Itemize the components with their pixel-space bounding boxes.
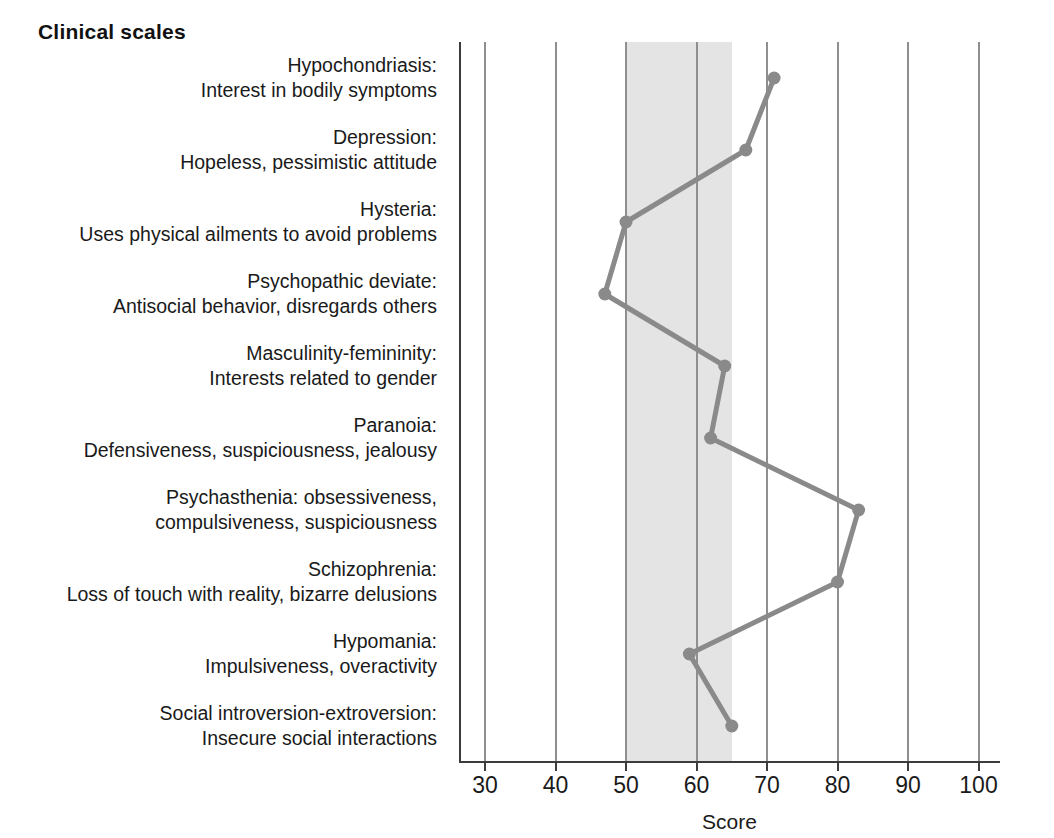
scale-label-line1: Social introversion-extroversion: [0, 701, 437, 726]
scale-label-line2: Insecure social interactions [0, 726, 437, 751]
data-point-masculinity-femininity [718, 360, 731, 373]
tick-mark-50 [625, 762, 627, 771]
clinical-scales-chart: Clinical scales Hypochondriasis:Interest… [0, 0, 1054, 838]
tick-mark-40 [555, 762, 557, 771]
scale-label-line1: Hypochondriasis: [0, 53, 437, 78]
x-axis-title: Score [459, 810, 1000, 834]
scale-label-line2: Antisocial behavior, disregards others [0, 294, 437, 319]
scale-label-line2: Interest in bodily symptoms [0, 78, 437, 103]
x-axis-tick-labels: 30405060708090100 [459, 772, 1019, 806]
tick-label-40: 40 [543, 772, 569, 799]
tick-label-30: 30 [472, 772, 498, 799]
data-point-hypochondriasis [768, 72, 781, 85]
tick-mark-60 [696, 762, 698, 771]
scale-label-paranoia: Paranoia:Defensiveness, suspiciousness, … [0, 413, 437, 463]
scale-label-hypomania: Hypomania:Impulsiveness, overactivity [0, 629, 437, 679]
scale-label-hysteria: Hysteria:Uses physical ailments to avoid… [0, 197, 437, 247]
tick-label-60: 60 [684, 772, 710, 799]
tick-label-70: 70 [754, 772, 780, 799]
page-title: Clinical scales [38, 20, 186, 44]
scale-label-line1: Schizophrenia: [0, 557, 437, 582]
scale-label-line1: Paranoia: [0, 413, 437, 438]
scale-label-line1: Hysteria: [0, 197, 437, 222]
data-point-psychasthenia [852, 504, 865, 517]
data-point-hypomania [683, 648, 696, 661]
scale-label-line1: Masculinity-femininity: [0, 341, 437, 366]
scale-label-line1: Depression: [0, 125, 437, 150]
tick-label-80: 80 [825, 772, 851, 799]
tick-mark-90 [907, 762, 909, 771]
scale-label-line2: Interests related to gender [0, 366, 437, 391]
data-point-hysteria [620, 216, 633, 229]
tick-mark-100 [978, 762, 980, 771]
profile-line [605, 78, 859, 726]
scale-label-psychopathic-deviate: Psychopathic deviate:Antisocial behavior… [0, 269, 437, 319]
scale-label-line1: Hypomania: [0, 629, 437, 654]
tick-mark-70 [766, 762, 768, 771]
scale-label-line2: Loss of touch with reality, bizarre delu… [0, 582, 437, 607]
scale-label-line1: Psychasthenia: obsessiveness, [0, 485, 437, 510]
scale-label-hypochondriasis: Hypochondriasis:Interest in bodily sympt… [0, 53, 437, 103]
profile-line-series [459, 42, 1000, 762]
plot-area [459, 42, 1000, 762]
tick-label-90: 90 [895, 772, 921, 799]
data-point-depression [739, 144, 752, 157]
tick-mark-30 [484, 762, 486, 771]
scale-label-social-introversion-extroversion: Social introversion-extroversion:Insecur… [0, 701, 437, 751]
scale-label-line2: Uses physical ailments to avoid problems [0, 222, 437, 247]
tick-label-50: 50 [613, 772, 639, 799]
data-point-schizophrenia [831, 576, 844, 589]
scale-label-psychasthenia: Psychasthenia: obsessiveness,compulsiven… [0, 485, 437, 535]
scale-label-line1: Psychopathic deviate: [0, 269, 437, 294]
data-point-psychopathic-deviate [598, 288, 611, 301]
data-point-paranoia [704, 432, 717, 445]
tick-mark-80 [837, 762, 839, 771]
scale-label-masculinity-femininity: Masculinity-femininity:Interests related… [0, 341, 437, 391]
data-point-social-introversion-extroversion [725, 720, 738, 733]
scale-label-column: Hypochondriasis:Interest in bodily sympt… [0, 42, 447, 762]
scale-label-depression: Depression:Hopeless, pessimistic attitud… [0, 125, 437, 175]
scale-label-line2: Impulsiveness, overactivity [0, 654, 437, 679]
scale-label-line2: Hopeless, pessimistic attitude [0, 150, 437, 175]
tick-label-100: 100 [959, 772, 997, 799]
scale-label-line2: compulsiveness, suspiciousness [0, 510, 437, 535]
scale-label-schizophrenia: Schizophrenia:Loss of touch with reality… [0, 557, 437, 607]
scale-label-line2: Defensiveness, suspiciousness, jealousy [0, 438, 437, 463]
